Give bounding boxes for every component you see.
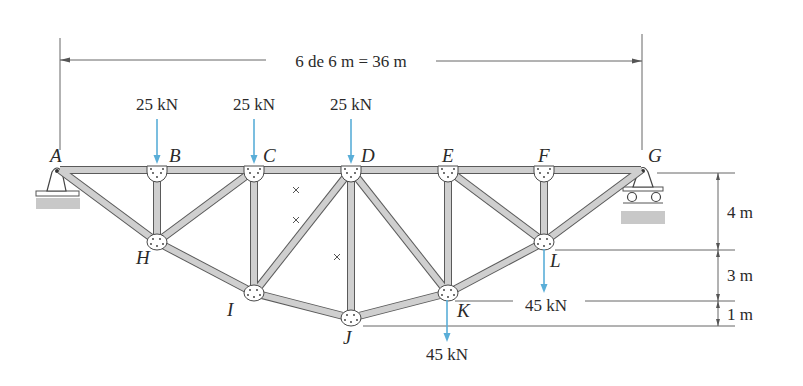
arrow-down-icon [444,333,451,342]
gusset-I [244,285,264,301]
gusset-D [341,166,361,182]
gusset-J [341,310,361,326]
member-HI [157,242,254,293]
node-label-F: F [537,145,550,166]
pin-support-A [36,168,80,209]
gusset-L [534,234,554,250]
member-DK [351,170,448,293]
arrowhead-left-icon [60,58,70,63]
load-label-L: 45 kN [525,296,567,315]
gusset-K [438,285,458,301]
node-label-I: I [226,299,235,320]
node-label-C: C [263,145,276,166]
member-IJ [254,293,351,318]
load-L: 45 kN [525,249,567,315]
gusset-C [244,166,264,182]
arrow-down-icon [541,284,548,293]
node-label-H: H [135,247,151,268]
gusset-E [438,166,458,182]
member-HC [157,170,254,242]
dim-label-3m: 3 m [727,266,753,285]
dim-label-1m: 1 m [727,305,753,324]
arrow-down-icon [154,155,161,164]
member-KL [448,242,544,293]
arrow-down-icon [251,155,258,164]
node-label-K: K [456,300,471,321]
node-label-E: E [441,145,454,166]
dim-label-4m: 4 m [727,203,753,222]
node-label-D: D [360,145,375,166]
node-label-G: G [648,145,662,166]
arrowhead-right-icon [632,59,642,64]
member-JK [351,293,448,318]
load-label-D: 25 kN [330,95,372,114]
member-EL [448,170,544,242]
member-ID [254,170,351,293]
load-label-B: 25 kN [136,95,178,114]
gusset-B [147,166,167,182]
gusset-F [534,166,554,182]
roller-wheel-icon [628,193,637,202]
node-label-A: A [48,145,62,166]
node-label-B: B [169,145,181,166]
node-label-L: L [549,250,561,271]
member-LG [544,170,641,242]
load-label-C: 25 kN [233,95,275,114]
roller-wheel-icon [652,193,661,202]
gusset-H [147,234,167,250]
load-label-K: 45 kN [426,345,468,364]
arrow-down-icon [348,155,355,164]
node-label-J: J [343,327,353,348]
truss-figure: 6 de 6 m = 36 m 4 m 3 m 1 m [0,0,803,386]
span-label: 6 de 6 m = 36 m [295,52,407,71]
